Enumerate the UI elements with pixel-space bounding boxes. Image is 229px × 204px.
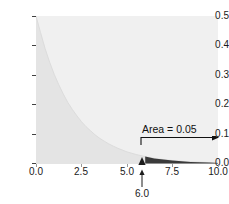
y-tick-label: 0.2: [201, 99, 229, 109]
area-annotation-label: Area = 0.05: [142, 124, 197, 135]
area-arrow: [140, 136, 220, 150]
x-tick-label: 2.5: [61, 167, 101, 177]
y-tick-mark: [32, 75, 36, 76]
x-tick-label: 0.0: [16, 167, 56, 177]
critical-value-pointer: [136, 156, 148, 188]
y-tick-mark: [32, 134, 36, 135]
y-tick-label: 0.4: [201, 40, 229, 50]
x-tick-label: 7.5: [152, 167, 192, 177]
y-tick-label: 0.5: [201, 11, 229, 21]
y-tick-mark: [32, 16, 36, 17]
chart-figure: 0.5 0.4 0.3 0.2 0.1 0.0 0.0 2.5 5.0 7.5 …: [0, 0, 229, 204]
y-tick-mark: [32, 45, 36, 46]
x-tick-label: 10.0: [198, 167, 229, 177]
y-tick-label: 0.3: [201, 70, 229, 80]
y-tick-mark: [32, 104, 36, 105]
critical-value-label: 6.0: [122, 189, 162, 199]
